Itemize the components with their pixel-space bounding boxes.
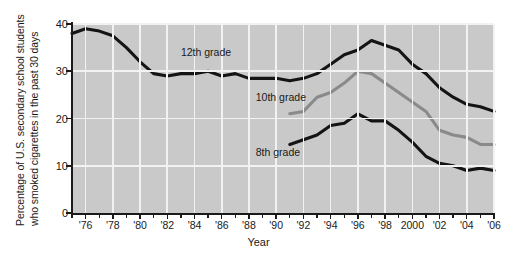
y-axis-title: Percentage of U.S. secondary school stud… [0, 0, 46, 232]
x-tick-mark-minor [452, 214, 453, 218]
x-tick-mark-minor [99, 214, 100, 218]
x-tick-label: '98 [378, 219, 392, 231]
y-tick-mark [66, 23, 72, 25]
x-tick-label: '02 [433, 219, 447, 231]
plot-area [72, 24, 494, 213]
series-label-12th-grade: 12th grade [181, 46, 231, 58]
x-tick-label: '80 [133, 219, 147, 231]
x-tick-label: '86 [215, 219, 229, 231]
x-tick-label: '82 [160, 219, 174, 231]
x-tick-label: '94 [324, 219, 338, 231]
x-tick-mark-minor [371, 214, 372, 218]
y-tick-mark [66, 118, 72, 120]
x-axis-title: Year [0, 236, 517, 248]
x-tick-mark-minor [153, 214, 154, 218]
x-tick-mark-minor [71, 214, 72, 218]
x-tick-mark-minor [398, 214, 399, 218]
x-tick-label: '04 [460, 219, 474, 231]
x-tick-label: '84 [188, 219, 202, 231]
x-tick-mark-minor [126, 214, 127, 218]
y-tick-mark [66, 70, 72, 72]
series-label-10th-grade: 10th grade [256, 91, 306, 103]
x-tick-mark-minor [425, 214, 426, 218]
gridline-horizontal [72, 165, 494, 167]
y-axis-title-line-2: who smoked cigarettes in the past 30 day… [28, 32, 40, 226]
x-tick-mark-minor [344, 214, 345, 218]
x-tick-label: '92 [297, 219, 311, 231]
x-tick-mark-minor [207, 214, 208, 218]
x-tick-mark-minor [480, 214, 481, 218]
x-axis-spine [71, 213, 495, 215]
x-tick-label: 2000 [401, 219, 424, 231]
gridline-horizontal [72, 23, 494, 25]
x-tick-label: '90 [269, 219, 283, 231]
x-tick-label: '78 [106, 219, 120, 231]
series-line-8th-grade [290, 114, 494, 171]
x-tick-mark-minor [289, 214, 290, 218]
chart-figure: Percentage of U.S. secondary school stud… [0, 0, 517, 276]
y-tick-mark [66, 165, 72, 167]
x-tick-label: '88 [242, 219, 256, 231]
x-tick-mark-minor [316, 214, 317, 218]
x-tick-label: '06 [487, 219, 501, 231]
gridline-horizontal [72, 70, 494, 72]
y-axis-title-line-1: Percentage of U.S. secondary school stud… [14, 14, 26, 226]
x-tick-mark-minor [180, 214, 181, 218]
x-tick-mark-minor [262, 214, 263, 218]
gridline-horizontal [72, 118, 494, 120]
series-label-8th-grade: 8th grade [256, 146, 300, 158]
x-tick-label: '76 [79, 219, 93, 231]
x-tick-label: '96 [351, 219, 365, 231]
x-tick-mark-minor [235, 214, 236, 218]
